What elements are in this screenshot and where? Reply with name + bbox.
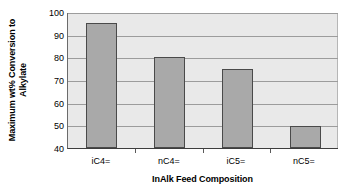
x-axis-tickmark	[270, 149, 271, 153]
x-axis-tickmark	[203, 149, 204, 153]
y-axis-tick-label: 100	[34, 8, 64, 18]
y-axis-title-line-1: Maximum wt% Conversion to	[7, 19, 18, 142]
y-axis-tick-label: 60	[34, 99, 64, 109]
x-axis-tick-label: nC5=	[274, 155, 334, 167]
x-axis-title: InAlk Feed Composition	[67, 174, 338, 184]
y-axis-tick-label: 90	[34, 31, 64, 41]
x-axis-tick-label: iC5=	[206, 155, 266, 167]
x-axis-tick-label: iC4=	[71, 155, 131, 167]
bar-chart: Maximum wt% Conversion to Alkylate 40506…	[0, 0, 352, 196]
y-axis-tick-label: 40	[34, 144, 64, 154]
bar	[290, 126, 321, 148]
y-axis-tick-label: 50	[34, 121, 64, 131]
gridline	[68, 13, 338, 14]
y-axis-tick-label: 80	[34, 53, 64, 63]
y-axis-tick-labels: 405060708090100	[34, 8, 64, 156]
plot-area	[67, 13, 338, 149]
bar	[222, 69, 253, 148]
y-axis-tick-label: 70	[34, 76, 64, 86]
y-axis-title: Maximum wt% Conversion to Alkylate	[0, 0, 36, 160]
x-axis-tickmark	[135, 149, 136, 153]
bar	[86, 23, 117, 148]
x-axis-tick-label: nC4=	[139, 155, 199, 167]
bar	[154, 57, 185, 148]
y-axis-title-line-2: Alkylate	[18, 19, 29, 142]
